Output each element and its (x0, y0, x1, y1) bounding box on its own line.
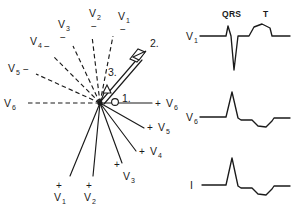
ecg-trace-v6-group: V 6 (186, 92, 290, 127)
lead-sign-neg-v5: − (23, 64, 29, 75)
axis-line-pos-v3 (100, 103, 122, 163)
lead-label-pos-v4-sub: 4 (158, 152, 162, 159)
ecg-trace-v1-group: V 1 (186, 24, 290, 70)
lead-label-pos-v6: + V 6 (155, 97, 178, 111)
ecg-trace-v1-label-sub: 1 (194, 37, 198, 44)
vector-number-2: 2. (150, 37, 159, 49)
axis-line-pos-v2 (93, 103, 100, 176)
lead-label-pos-v1-sub: 1 (62, 198, 66, 205)
lead-sign-pos-v4: + (139, 146, 145, 157)
axis-line-neg-v2 (92, 36, 100, 103)
ecg-trace-v1-label: V (186, 30, 193, 42)
t-wave-label: T (263, 9, 269, 19)
lead-label-pos-v3: + V 3 (114, 159, 135, 184)
axis-line-pos-v4 (100, 103, 136, 151)
ecg-trace-lead1-label: I (190, 179, 193, 191)
vector-3-arrowhead (103, 85, 111, 93)
lead-label-neg-v4: V 4 − (30, 35, 50, 52)
lead-label-pos-v5-sub: 5 (166, 128, 170, 135)
lead-label-pos-v5: + V 5 (147, 121, 170, 135)
lead-sign-pos-v6: + (155, 98, 161, 109)
lead-label-neg-v1: V 1 − (118, 10, 130, 35)
lead-label-pos-v1: + V 1 (54, 180, 66, 205)
vector-number-1: 1. (122, 92, 131, 104)
lead-label-pos-v4-letter: V (150, 145, 157, 157)
lead-label-neg-v3-sub: 3 (66, 25, 70, 32)
vector-origin-point (97, 100, 102, 105)
lead-label-pos-v5-letter: V (158, 121, 165, 133)
lead-sign-neg-v4: − (44, 41, 50, 52)
lead-label-neg-v4-sub: 4 (38, 42, 42, 49)
ecg-vector-figure: V 1 − V 2 − V 3 − V 4 − V 5 − (0, 0, 296, 209)
ecg-trace-v1-path (200, 24, 290, 70)
lead-label-neg-v1-sub: 1 (126, 17, 130, 24)
lead-label-neg-v5: V 5 − (8, 62, 29, 76)
axis-line-pos-v5 (100, 103, 144, 128)
vector-number-3: 3. (108, 66, 117, 78)
lead-label-pos-v6-sub: 6 (174, 104, 178, 111)
figure-canvas: V 1 − V 2 − V 3 − V 4 − V 5 − (0, 0, 296, 209)
lead-label-neg-v6-letter: V (4, 97, 11, 109)
vector-1-head (112, 99, 119, 106)
lead-sign-neg-v1: − (120, 24, 126, 35)
lead-label-neg-v2: V 2 − (89, 7, 101, 32)
lead-label-pos-v1-letter: V (54, 191, 61, 203)
lead-sign-pos-v1: + (56, 180, 62, 191)
lead-label-pos-v2: + V 2 (84, 180, 96, 205)
ecg-trace-v6-path (200, 92, 290, 127)
vector-2-shaft-a (101, 57, 139, 101)
axis-line-neg-v3 (73, 46, 100, 103)
qrs-label: QRS (222, 9, 241, 19)
ecg-trace-v6-label: V (186, 111, 193, 123)
lead-label-neg-v6: V 6 (4, 97, 16, 111)
ecg-trace-v6-label-sub: 6 (194, 118, 198, 125)
ecg-interval-labels: QRS T (222, 9, 269, 19)
lead-label-pos-v3-letter: V (123, 170, 130, 182)
lead-label-pos-v3-sub: 3 (131, 177, 135, 184)
lead-label-neg-v6-sub: 6 (12, 104, 16, 111)
lead-sign-pos-v3: + (114, 159, 120, 170)
lead-label-neg-v3-letter: V (58, 18, 65, 30)
lead-label-neg-v1-letter: V (118, 10, 125, 22)
lead-label-neg-v5-letter: V (8, 62, 15, 74)
lead-label-neg-v2-letter: V (89, 7, 96, 19)
lead-label-pos-v4: + V 4 (139, 145, 162, 159)
ecg-trace-lead1-group: I (190, 158, 290, 195)
lead-label-pos-v2-letter: V (84, 191, 91, 203)
lead-label-pos-v2-sub: 2 (92, 198, 96, 205)
ecg-trace-lead1-path (202, 158, 290, 195)
lead-sign-pos-v2: + (86, 180, 92, 191)
lead-sign-neg-v2: − (91, 21, 97, 32)
lead-label-neg-v2-sub: 2 (97, 14, 101, 21)
lead-label-pos-v6-letter: V (166, 97, 173, 109)
positive-lead-axes (70, 103, 152, 176)
lead-sign-pos-v5: + (147, 122, 153, 133)
mean-vector-1 (112, 99, 119, 106)
axis-line-pos-v1 (70, 103, 100, 176)
lead-sign-neg-v3: − (60, 32, 66, 43)
axis-line-neg-v5 (36, 74, 100, 103)
axis-line-neg-v4 (54, 57, 100, 103)
lead-label-neg-v3: V 3 − (58, 18, 70, 43)
lead-label-neg-v5-sub: 5 (16, 69, 20, 76)
positive-lead-labels: + V 6 + V 5 + V 4 + V 3 + V 2 (54, 97, 178, 205)
lead-label-neg-v4-letter: V (30, 35, 37, 47)
